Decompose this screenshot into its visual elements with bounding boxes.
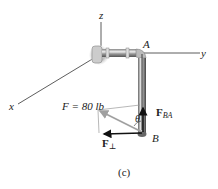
angle-theta-label: θ xyxy=(135,114,140,124)
force-Fperp-label: F⊥ xyxy=(102,138,116,151)
pipe-elbow xyxy=(136,49,146,58)
point-A-label: A xyxy=(143,39,150,50)
force-vector-Fperp xyxy=(104,133,142,134)
x-axis xyxy=(18,58,94,104)
force-FBA-label: FBA xyxy=(156,107,173,120)
figure-caption: (c) xyxy=(118,167,130,178)
force-F-label: F = 80 lb xyxy=(62,101,104,112)
x-axis-label: x xyxy=(9,101,14,112)
point-B-label: B xyxy=(152,133,159,144)
z-axis-label: z xyxy=(99,10,103,21)
y-axis-label: y xyxy=(201,48,206,59)
diagram-canvas xyxy=(0,0,218,189)
